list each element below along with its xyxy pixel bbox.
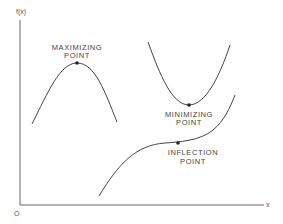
maximizing-point-marker	[75, 61, 79, 65]
minimizing-point-marker	[187, 103, 191, 107]
minimizing-label-line2: POINT	[176, 118, 202, 127]
maximizing-label-line2: POINT	[64, 51, 90, 60]
inflection-point-marker	[176, 141, 180, 145]
minimum-curve	[148, 42, 230, 105]
inflection-label-line2: POINT	[180, 157, 206, 166]
inflection-label-line1: INFLECTION	[168, 148, 219, 157]
diagram-canvas: f(x) x O MAXIMIZING POINT MINIMIZING POI…	[0, 0, 283, 224]
x-axis-label: x	[266, 201, 270, 208]
maximum-curve	[32, 63, 117, 124]
y-axis-label: f(x)	[16, 8, 26, 16]
origin-label: O	[14, 210, 20, 217]
